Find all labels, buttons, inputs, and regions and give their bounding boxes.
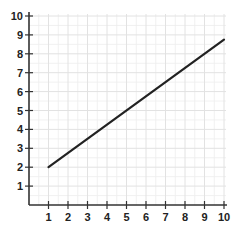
y-tick-label-9: 9 [17,29,23,41]
y-tick-label-2: 2 [17,161,23,173]
y-tick-label-3: 3 [17,142,23,154]
y-tick-label-1: 1 [17,180,23,192]
x-tick-label-4: 4 [104,211,111,223]
x-tick-label-9: 9 [201,211,207,223]
y-tick-label-10: 10 [11,10,23,22]
y-tick-label-7: 7 [17,67,23,79]
x-tick-labels: 12345678910 [45,211,230,223]
y-tick-label-5: 5 [17,105,23,117]
x-tick-label-3: 3 [84,211,90,223]
y-tick-label-6: 6 [17,86,23,98]
line-chart: 12345678910 12345678910 [0,0,238,229]
y-tick-label-4: 4 [17,123,24,135]
x-tick-label-6: 6 [143,211,149,223]
x-tick-label-10: 10 [218,211,230,223]
y-tick-label-8: 8 [17,48,23,60]
x-tick-label-5: 5 [123,211,129,223]
x-tick-label-7: 7 [162,211,168,223]
x-tick-label-8: 8 [182,211,188,223]
x-tick-label-2: 2 [65,211,71,223]
x-tick-label-1: 1 [45,211,51,223]
y-tick-labels: 12345678910 [11,10,24,192]
